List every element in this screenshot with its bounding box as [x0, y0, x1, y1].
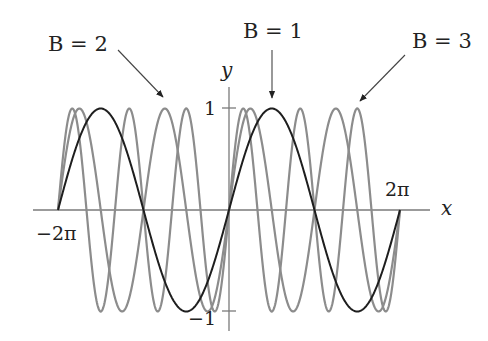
- y-tick-label-neg1: −1: [188, 307, 216, 329]
- x-tick-label-neg2pi: −2π: [36, 222, 77, 244]
- x-axis-label: x: [441, 196, 452, 220]
- plot-area: y x 1 −1 −2π 2π B = 2 B = 1 B = 3: [0, 0, 488, 341]
- annotation-b3: B = 3: [412, 29, 472, 53]
- arrow-b3: [360, 55, 405, 101]
- annotation-b2: B = 2: [48, 32, 108, 56]
- chart-figure: y x 1 −1 −2π 2π B = 2 B = 1 B = 3: [0, 0, 488, 341]
- y-tick-label-1: 1: [204, 97, 216, 119]
- x-tick-label-2pi: 2π: [385, 178, 410, 200]
- annotation-b1: B = 1: [243, 19, 303, 43]
- arrow-b2: [118, 50, 163, 97]
- y-axis-label: y: [220, 58, 233, 82]
